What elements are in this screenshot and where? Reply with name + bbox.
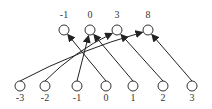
top-node-label: 8 (146, 9, 151, 20)
bottom-node (101, 81, 111, 91)
top-node (85, 25, 95, 35)
top-node-label: 0 (88, 9, 93, 20)
top-node-label: -1 (60, 9, 68, 20)
nodes: -1038-3-2-10123 (15, 9, 197, 103)
bottom-node (128, 81, 138, 91)
bottom-node (72, 81, 82, 91)
bottom-node-label: -2 (41, 92, 49, 103)
bottom-node (158, 81, 168, 91)
top-node-label: 3 (115, 9, 120, 20)
bottom-node-label: 0 (104, 92, 109, 103)
edge-arrow (152, 35, 192, 81)
bottom-node (15, 81, 25, 91)
top-node (59, 25, 69, 35)
mapping-diagram: -1038-3-2-10123 (0, 0, 212, 109)
bottom-node-label: 2 (161, 92, 166, 103)
diagram: -1038-3-2-10123 (0, 0, 212, 109)
bottom-node-label: -3 (16, 92, 24, 103)
bottom-node (187, 81, 197, 91)
bottom-node-label: 1 (131, 92, 136, 103)
bottom-node-label: -1 (73, 92, 81, 103)
bottom-node-label: 3 (190, 92, 195, 103)
bottom-node (40, 81, 50, 91)
edge-arrow (20, 32, 142, 81)
edges (20, 32, 192, 81)
top-node (112, 25, 122, 35)
top-node (143, 25, 153, 35)
